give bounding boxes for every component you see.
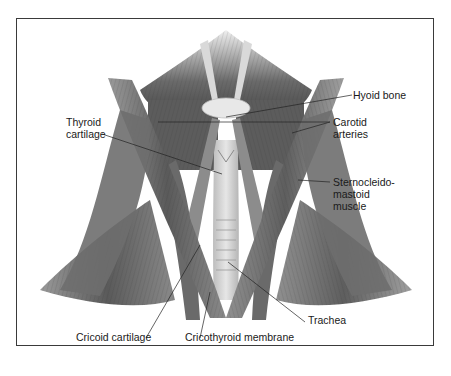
label-scm-line2: mastoid	[333, 188, 370, 200]
label-scm-line1: Sternocleido-	[333, 176, 395, 188]
trachea	[213, 140, 239, 300]
label-hyoid-bone: Hyoid bone	[353, 89, 406, 101]
label-thyroid-cartilage-line1: Thyroid	[66, 116, 101, 128]
label-trachea: Trachea	[308, 314, 346, 326]
label-carotid-arteries-line2: arteries	[333, 128, 368, 140]
label-thyroid-cartilage-line2: cartilage	[66, 128, 106, 140]
label-cricoid-cartilage: Cricoid cartilage	[76, 331, 151, 343]
label-scm-line3: muscle	[333, 200, 366, 212]
label-carotid-arteries-line1: Carotid	[333, 116, 367, 128]
hyoid-bone	[202, 98, 250, 118]
label-cricothyroid-membrane: Cricothyroid membrane	[185, 331, 294, 343]
neck-anatomy-illustration	[0, 0, 451, 376]
